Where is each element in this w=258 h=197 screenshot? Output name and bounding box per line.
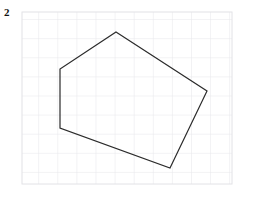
figure-area bbox=[0, 0, 258, 197]
grid-background bbox=[22, 12, 232, 184]
polygon-figure-svg bbox=[0, 0, 258, 197]
worksheet-figure-page: 2 bbox=[0, 0, 258, 197]
